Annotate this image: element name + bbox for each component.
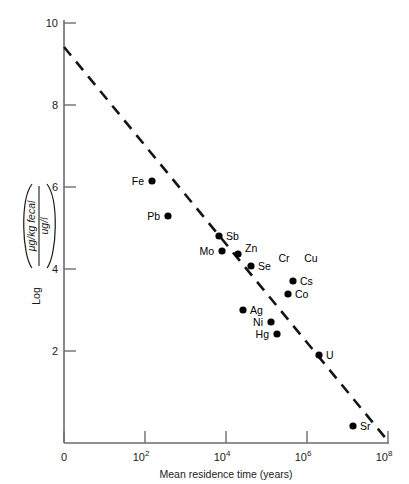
trend-line-dashed (64, 47, 388, 441)
data-point-ag[interactable]: Ag (239, 304, 263, 316)
data-point-dot[interactable] (148, 177, 155, 184)
data-point-label: Ag (250, 304, 263, 316)
data-point-cr[interactable]: Cr (278, 252, 290, 264)
data-point-dot[interactable] (164, 212, 171, 219)
data-point-label: Sb (226, 230, 239, 242)
data-point-label: Cu (304, 252, 318, 264)
y-tick-label-10: 10 (46, 17, 58, 29)
x-tick-label-1e8: 108 (376, 449, 393, 463)
x-tick-label-1e4-exp: 4 (226, 449, 231, 458)
data-point-cs[interactable]: Cs (289, 275, 312, 287)
data-point-ni[interactable]: Ni (253, 316, 275, 328)
data-point-label: Zn (245, 242, 257, 254)
y-axis-title-denominator: ug/l (38, 217, 50, 235)
x-tick-label-1e6-exp: 6 (307, 449, 312, 458)
y-axis-title-group: Log μg/kg fecal ug/l (24, 184, 56, 305)
data-point-se[interactable]: Se (247, 260, 271, 272)
data-point-dot[interactable] (267, 318, 274, 325)
data-point-label: Co (295, 288, 309, 300)
y-axis-title-prefix: Log (30, 287, 42, 305)
data-point-sb[interactable]: Sb (215, 230, 239, 242)
x-tick-labels: 0 102 104 106 108 (61, 449, 393, 463)
data-point-zn[interactable]: Zn (234, 242, 257, 258)
x-tick-label-1e8-base: 10 (376, 451, 388, 463)
x-tick-label-1e6: 106 (295, 449, 312, 463)
data-point-label: Mo (199, 245, 214, 257)
data-point-dot[interactable] (234, 250, 241, 257)
y-tick-labels: 10 8 6 4 2 (46, 17, 58, 357)
data-point-u[interactable]: U (315, 349, 333, 361)
data-point-dot[interactable] (284, 290, 291, 297)
data-point-label: Cs (300, 275, 313, 287)
data-point-sr[interactable]: Sr (349, 420, 371, 432)
data-point-label: Fe (132, 175, 144, 187)
data-point-dot[interactable] (215, 232, 222, 239)
x-tick-label-0-base: 0 (61, 451, 67, 463)
data-point-dot[interactable] (239, 306, 246, 313)
data-point-dot[interactable] (273, 330, 280, 337)
y-tick-label-2: 2 (52, 345, 58, 357)
data-point-pb[interactable]: Pb (147, 210, 171, 222)
data-points-group: Fe Pb Sb Mo Zn Se (132, 175, 371, 432)
data-point-mo[interactable]: Mo (199, 245, 225, 257)
data-point-dot[interactable] (247, 262, 254, 269)
data-point-label: Pb (147, 210, 160, 222)
y-tick-marks (64, 23, 76, 351)
data-point-dot[interactable] (349, 422, 356, 429)
data-point-label: Hg (256, 328, 270, 340)
data-point-label: Sr (360, 420, 371, 432)
x-tick-label-0: 0 (61, 451, 67, 463)
chart-container: 10 8 6 4 2 0 102 104 106 (0, 0, 409, 484)
x-tick-label-1e2-exp: 2 (145, 449, 150, 458)
data-point-cu[interactable]: Cu (304, 252, 318, 264)
y-tick-label-8: 8 (52, 99, 58, 111)
data-point-label: U (326, 349, 334, 361)
y-tick-label-4: 4 (52, 263, 58, 275)
x-tick-marks (64, 431, 388, 443)
x-tick-label-1e4: 104 (214, 449, 231, 463)
data-point-label: Ni (253, 316, 263, 328)
x-axis-title: Mean residence time (years) (159, 468, 292, 480)
x-tick-label-1e8-exp: 8 (388, 449, 393, 458)
data-point-hg[interactable]: Hg (256, 328, 281, 340)
x-tick-label-1e6-base: 10 (295, 451, 307, 463)
x-tick-label-1e2: 102 (133, 449, 150, 463)
y-tick-label-6: 6 (52, 181, 58, 193)
x-tick-label-1e2-base: 10 (133, 451, 145, 463)
data-point-dot[interactable] (218, 247, 225, 254)
y-axis-title-numerator: μg/kg fecal (25, 200, 37, 252)
data-point-dot[interactable] (315, 351, 322, 358)
data-point-dot[interactable] (289, 277, 296, 284)
data-point-co[interactable]: Co (284, 288, 308, 300)
data-point-label: Se (258, 260, 271, 272)
scatter-plot-svg: 10 8 6 4 2 0 102 104 106 (0, 0, 409, 484)
data-point-fe[interactable]: Fe (132, 175, 156, 187)
x-tick-label-1e4-base: 10 (214, 451, 226, 463)
data-point-label: Cr (278, 252, 290, 264)
